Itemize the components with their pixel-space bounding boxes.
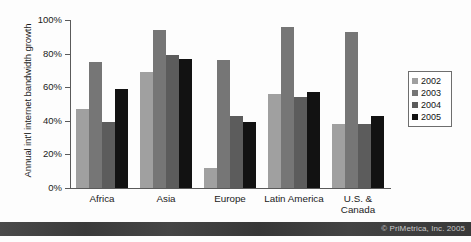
bar-group [76,20,128,188]
legend-label: 2005 [421,113,441,122]
bar [179,59,192,188]
bar [217,60,230,188]
legend-swatch-icon [412,114,418,120]
bar [204,168,217,188]
bar [166,55,179,188]
bar [89,62,102,188]
legend-swatch-icon [412,102,418,108]
bar [371,116,384,188]
x-category-label: U.S. & Canada [316,193,400,215]
bar [294,97,307,188]
legend-label: 2004 [421,101,441,110]
legend: 2002200320042005 [408,71,452,127]
bar-group [140,20,192,188]
bar [268,94,281,188]
legend-item[interactable]: 2003 [412,87,448,99]
bar [115,89,128,188]
bar [140,72,153,188]
y-tick-label: 60% [28,82,62,92]
y-axis-tick-labels: 0%20%40%60%80%100% [24,0,62,200]
legend-item[interactable]: 2002 [412,75,448,87]
bar [76,109,89,188]
y-tick-label: 0% [28,183,62,193]
legend-swatch-icon [412,90,418,96]
legend-item[interactable]: 2005 [412,111,448,123]
y-tick-label: 40% [28,116,62,126]
legend-label: 2002 [421,77,441,86]
bar [345,32,358,188]
plot-area [70,20,390,188]
x-axis-line [70,188,391,189]
legend-item[interactable]: 2004 [412,99,448,111]
y-tick-label: 80% [28,49,62,59]
legend-label: 2003 [421,89,441,98]
bar-group [332,20,384,188]
bar [307,92,320,188]
bar [358,124,371,188]
bar [153,30,166,188]
copyright-credit: © PriMetrica, Inc. 2005 [381,223,465,235]
y-tick-label: 100% [28,15,62,25]
legend-swatch-icon [412,78,418,84]
bar [243,122,256,188]
y-tick-label: 20% [28,149,62,159]
bar [332,124,345,188]
bar-group [204,20,256,188]
bar-group [268,20,320,188]
bar-chart-figure: Annual int'l internet bandwidth growth 0… [0,0,471,242]
bar [281,27,294,188]
bar [102,122,115,188]
bar [230,116,243,188]
